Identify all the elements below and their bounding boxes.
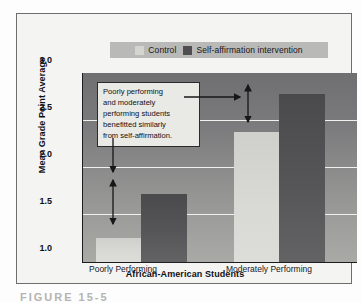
chart-legend: Control Self-affirmation intervention (110, 42, 328, 58)
y-tick-label-3-0: 3.0 (26, 55, 52, 65)
legend-entry-control: Control (135, 45, 176, 55)
annotation-line-4: benefitted similarly (103, 120, 195, 131)
annotation-line-1: Poorly performing (103, 87, 195, 98)
control-swatch-icon (135, 46, 144, 55)
annotation-line-3: performing students (103, 109, 195, 120)
figure-frame: Control Self-affirmation intervention Me… (16, 13, 352, 284)
annotation-line-5: from self-affirmation. (103, 131, 195, 142)
bar-intervention-poorly-performing (141, 194, 187, 262)
bar-control-moderately-performing (234, 132, 279, 262)
annotation-line-2: and moderately (103, 98, 195, 109)
annotation-callout: Poorly performing and moderately perform… (97, 82, 200, 147)
figure-caption: FIGURE 15-5 (20, 291, 109, 303)
legend-entry-intervention: Self-affirmation intervention (183, 45, 302, 55)
y-tick-label-1-0: 1.0 (26, 243, 52, 253)
y-tick-label-2-0: 2.0 (26, 149, 52, 159)
legend-label-control: Control (148, 45, 176, 55)
x-axis-title: African-American Students (17, 269, 353, 279)
bar-intervention-moderately-performing (279, 94, 325, 262)
legend-label-intervention: Self-affirmation intervention (196, 45, 302, 55)
intervention-swatch-icon (183, 46, 192, 55)
y-tick-label-2-5: 2.5 (26, 102, 52, 112)
bar-control-poorly-performing (96, 238, 141, 262)
y-tick-label-1-5: 1.5 (26, 196, 52, 206)
